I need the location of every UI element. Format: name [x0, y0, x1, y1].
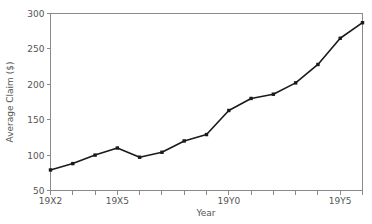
data-point [71, 162, 74, 165]
data-point [93, 153, 96, 156]
x-axis-title: Year [195, 208, 215, 218]
y-axis-ticks: 50100150200250300 [27, 9, 50, 196]
data-series-average-claim [49, 21, 364, 172]
series-line [51, 23, 363, 170]
data-point [294, 81, 297, 84]
data-point [227, 109, 230, 112]
line-chart: 50100150200250300 19X219X519Y019Y5 Year … [0, 0, 372, 224]
data-point [272, 93, 275, 96]
x-axis-ticks: 19X219X519Y019Y5 [39, 191, 363, 206]
x-tick-label: 19Y0 [217, 196, 240, 206]
data-point [138, 156, 141, 159]
series-markers [49, 21, 364, 172]
y-tick-label: 100 [27, 151, 44, 161]
data-point [205, 133, 208, 136]
y-tick-label: 50 [33, 186, 45, 196]
chart-figure: 50100150200250300 19X219X519Y019Y5 Year … [0, 0, 372, 224]
x-tick-label: 19X5 [106, 196, 129, 206]
data-point [183, 139, 186, 142]
data-point [361, 21, 364, 24]
x-tick-label: 19X2 [39, 196, 62, 206]
y-tick-label: 200 [27, 80, 44, 90]
y-tick-label: 300 [27, 9, 44, 19]
data-point [160, 151, 163, 154]
data-point [49, 168, 52, 171]
x-tick-label: 19Y5 [329, 196, 352, 206]
data-point [316, 63, 319, 66]
data-point [249, 97, 252, 100]
y-tick-label: 150 [27, 115, 44, 125]
data-point [116, 146, 119, 149]
y-tick-label: 250 [27, 44, 44, 54]
chart-axes [51, 14, 363, 191]
data-point [339, 37, 342, 40]
y-axis-title: Average Claim ($) [5, 62, 15, 143]
